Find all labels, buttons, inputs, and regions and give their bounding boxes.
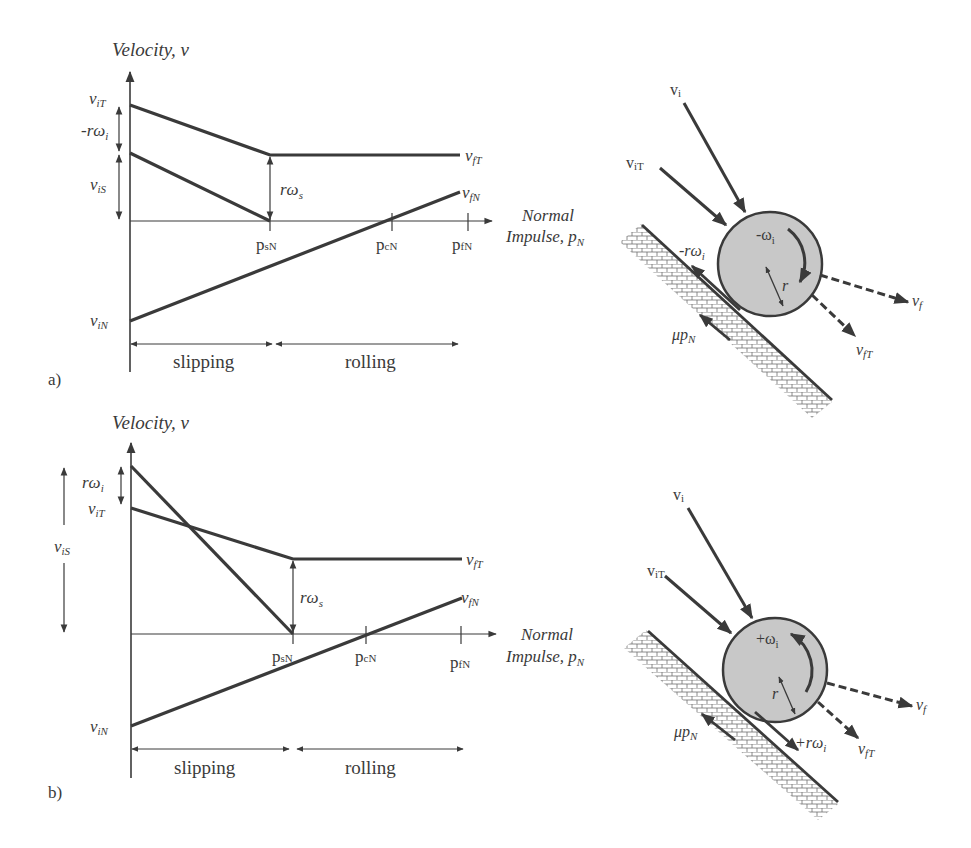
label-v-fT: vfT (858, 740, 875, 759)
arrow-v-fT (818, 702, 858, 738)
label-r-omega-i: rωi (82, 473, 104, 494)
label-p-fN: pfN (450, 653, 470, 672)
panel-b-chart: Velocity, v rωi viT viS rωs vfT vfN viN … (48, 412, 585, 802)
label-r-omega-s: rωs (300, 588, 323, 609)
arrow-v-f (820, 275, 908, 302)
label-p-sN: psN (272, 647, 293, 666)
panel-label-b: b) (48, 783, 62, 802)
label-v-f: vf (916, 696, 928, 715)
label-v-iN: viN (90, 717, 109, 737)
x-axis-label-line1: Normal (520, 625, 573, 644)
series-vT (130, 105, 460, 155)
phase-slipping-label: slipping (173, 351, 235, 372)
label-v-iS: viS (90, 175, 107, 195)
label-r-omega-s: rωs (280, 180, 303, 201)
y-axis-label: Velocity, v (112, 39, 190, 60)
series-vN (131, 598, 462, 726)
x-axis-label-line2: Impulse, pN (505, 227, 585, 248)
series-vN (130, 192, 460, 321)
arrow-v-f (827, 683, 912, 706)
label-p-cN: pcN (376, 235, 397, 254)
label-v-iT: viT (647, 562, 665, 580)
label-v-fT: vfT (466, 550, 484, 570)
phase-rolling-label: rolling (345, 757, 396, 778)
panel-b-ball-diagram: vi viT +ωi r +rωi vf vfT μpN (624, 486, 928, 820)
x-axis-label-line2: Impulse, pN (505, 647, 585, 668)
label-v-fT: vfT (856, 341, 873, 360)
label-v-fN: vfN (461, 588, 480, 608)
label-friction: μpN (671, 326, 696, 345)
label-friction: μpN (673, 723, 698, 742)
label-v-f: vf (912, 292, 924, 311)
label-r: r (772, 685, 779, 702)
label-p-sN: psN (256, 235, 277, 254)
arrow-v-fT (812, 295, 855, 336)
label-v-fN: vfN (462, 183, 481, 203)
label-v-fT: vfT (465, 146, 483, 166)
phase-rolling-label: rolling (345, 351, 396, 372)
x-axis-label-line1: Normal (521, 206, 574, 225)
label-r: r (782, 277, 789, 294)
label-v-iS: viS (54, 537, 71, 557)
arrow-v-iT (665, 576, 731, 633)
label-v-iT: viT (89, 89, 107, 109)
label-r-omega: -rωi (679, 242, 705, 262)
panel-a-ball-diagram: vi viT -ωi -rωi r vf vfT μpN (620, 81, 924, 418)
arrow-v-iT (660, 168, 726, 225)
label-v-iT: viT (88, 499, 106, 519)
panel-a-chart: Velocity, v viT -rωi viS rωs vfT vfN viN… (48, 39, 585, 389)
label-v-iT: viT (626, 154, 644, 172)
label-r-omega: +rωi (795, 734, 826, 754)
label-v-i: vi (670, 81, 681, 99)
label-v-iN: viN (90, 311, 109, 331)
y-axis-label: Velocity, v (112, 412, 190, 433)
phase-slipping-label: slipping (174, 757, 236, 778)
arrow-v-i (688, 508, 752, 618)
label-p-cN: pcN (355, 647, 376, 666)
panel-label-a: a) (48, 370, 61, 389)
label-r-omega-i: -rωi (81, 121, 108, 142)
label-v-i: vi (673, 486, 684, 504)
label-p-fN: pfN (452, 235, 472, 254)
figure-canvas: Velocity, v viT -rωi viS rωs vfT vfN viN… (0, 0, 971, 848)
series-vS (130, 153, 270, 221)
